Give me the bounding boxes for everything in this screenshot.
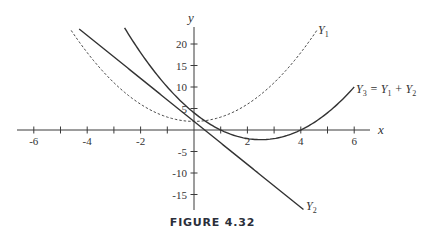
y-tick-label: 10 — [176, 81, 188, 93]
curves — [71, 28, 354, 210]
y2-curve — [79, 29, 303, 210]
y-tick-label: -15 — [172, 189, 187, 201]
x-tick-label: -6 — [29, 135, 39, 147]
y-tick-label: 15 — [176, 60, 188, 72]
axes: x y — [17, 10, 384, 210]
y-tick-label: -10 — [172, 167, 187, 179]
x-tick-label: -2 — [136, 135, 145, 147]
y3-curve — [125, 28, 355, 140]
figure-caption: FIGURE 4.32 — [0, 216, 425, 229]
x-tick-label: 2 — [245, 135, 251, 147]
y3-label: Y3 = Y1 + Y2 — [356, 82, 416, 98]
x-tick-label: 6 — [351, 135, 357, 147]
y1-label: Y1 — [318, 23, 329, 39]
y2-label: Y2 — [306, 199, 317, 215]
y-axis-label: y — [186, 10, 194, 25]
y-tick-label: 20 — [176, 38, 188, 50]
ticks: -6-4-22462015105-5-10-15 — [29, 38, 357, 201]
x-axis-label: x — [377, 122, 384, 137]
x-tick-label: 4 — [298, 135, 304, 147]
x-tick-label: -4 — [83, 135, 93, 147]
y-tick-label: -5 — [178, 146, 188, 158]
curve-labels: Y1 Y3 = Y1 + Y2 Y2 — [306, 23, 416, 215]
figure-chart: x y -6-4-22462015105-5-10-15 Y1 Y3 = Y1 … — [0, 0, 425, 232]
